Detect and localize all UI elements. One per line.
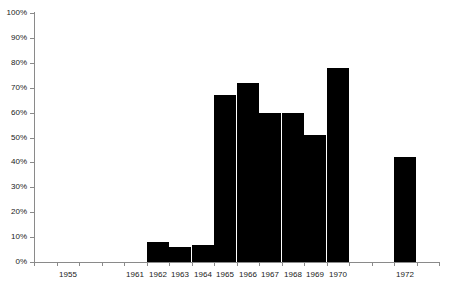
y-axis-tick-label: 90% — [0, 34, 27, 42]
x-axis-tick-label: 1972 — [396, 270, 414, 279]
bar-1968 — [282, 113, 304, 262]
x-axis-tick — [124, 262, 125, 266]
bar-1965 — [214, 95, 236, 262]
x-axis-tick — [147, 262, 148, 266]
x-axis-tick-label: 1970 — [329, 270, 347, 279]
x-axis-tick — [327, 262, 328, 266]
y-axis-tick-label: 80% — [0, 59, 27, 67]
x-axis-tick — [214, 262, 215, 266]
x-axis-tick — [282, 262, 283, 266]
y-axis-tick-label: 10% — [0, 233, 27, 241]
bar-1966 — [237, 83, 259, 262]
y-axis-tick-label: 60% — [0, 109, 27, 117]
x-axis-tick — [259, 262, 260, 266]
y-axis-tick-label: 40% — [0, 158, 27, 166]
plot-area — [34, 13, 439, 262]
bar-chart: 0%10%20%30%40%50%60%70%80%90%100% 195519… — [0, 0, 449, 290]
x-axis-tick-label: 1968 — [284, 270, 302, 279]
bar-1970 — [327, 68, 349, 262]
y-axis-tick-label: 0% — [0, 258, 27, 266]
x-axis-tick — [417, 262, 418, 266]
y-axis-tick-label: 100% — [0, 9, 27, 17]
x-axis-tick — [439, 262, 440, 266]
x-axis-tick-label: 1961 — [126, 270, 144, 279]
x-axis-tick — [169, 262, 170, 266]
x-axis-tick-label: 1966 — [239, 270, 257, 279]
x-axis-tick-label: 1955 — [59, 270, 77, 279]
bar-1963 — [169, 247, 191, 262]
y-axis-tick-label: 20% — [0, 208, 27, 216]
x-axis-tick — [192, 262, 193, 266]
x-axis-tick-label: 1963 — [171, 270, 189, 279]
y-axis-tick-label: 30% — [0, 183, 27, 191]
x-axis-tick — [102, 262, 103, 266]
x-axis-tick — [349, 262, 350, 266]
x-axis-tick — [394, 262, 395, 266]
x-axis-tick-label: 1962 — [149, 270, 167, 279]
bar-1964 — [192, 245, 214, 262]
bar-1962 — [147, 242, 169, 262]
bar-1972 — [394, 157, 416, 262]
x-axis-tick — [372, 262, 373, 266]
bar-1969 — [304, 135, 326, 262]
x-axis-tick-label: 1964 — [194, 270, 212, 279]
x-axis-tick — [34, 262, 35, 266]
y-axis-tick-label: 70% — [0, 84, 27, 92]
x-axis-tick — [304, 262, 305, 266]
x-axis-tick — [79, 262, 80, 266]
y-axis-tick-label: 50% — [0, 134, 27, 142]
x-axis-tick-label: 1967 — [261, 270, 279, 279]
x-axis-tick — [57, 262, 58, 266]
bar-1967 — [259, 113, 281, 262]
x-axis-tick-label: 1969 — [306, 270, 324, 279]
x-axis-tick-label: 1965 — [216, 270, 234, 279]
x-axis-tick — [237, 262, 238, 266]
